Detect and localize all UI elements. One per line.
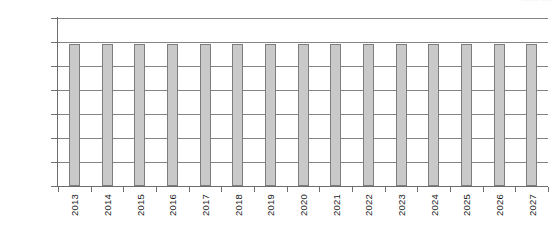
- x-axis-tick-label: 2013: [69, 194, 80, 216]
- bar-2013: [69, 44, 80, 186]
- bar-2023: [396, 44, 407, 186]
- x-axis-tick-label: 2017: [200, 194, 211, 216]
- x-tick-mark: [515, 187, 516, 192]
- bar-2022: [363, 44, 374, 186]
- x-axis-tick-label: 2019: [265, 194, 276, 216]
- bar-2026: [494, 44, 505, 186]
- x-tick-mark: [450, 187, 451, 192]
- x-axis-tick-label: 2026: [494, 194, 505, 216]
- y-tick-mark: [51, 114, 58, 115]
- x-tick-mark: [221, 187, 222, 192]
- gridline: [58, 42, 548, 43]
- bar-2027: [526, 44, 537, 186]
- bar-2021: [330, 44, 341, 186]
- y-tick-mark: [51, 90, 58, 91]
- y-tick-mark: [51, 66, 58, 67]
- y-tick-mark: [51, 162, 58, 163]
- x-axis-tick-label: 2015: [135, 194, 146, 216]
- x-tick-mark: [156, 187, 157, 192]
- y-tick-mark: [51, 42, 58, 43]
- x-tick-mark: [189, 187, 190, 192]
- x-tick-mark: [287, 187, 288, 192]
- x-tick-mark: [123, 187, 124, 192]
- bar-2024: [428, 44, 439, 186]
- gridline: [58, 186, 548, 187]
- bar-2015: [134, 44, 145, 186]
- plot-area: [58, 18, 548, 186]
- x-tick-mark: [254, 187, 255, 192]
- bar-2016: [167, 44, 178, 186]
- x-tick-mark: [483, 187, 484, 192]
- x-axis-tick-label: 2020: [298, 194, 309, 216]
- gridline: [58, 18, 548, 19]
- bar-2018: [232, 44, 243, 186]
- x-axis-tick-label: 2016: [167, 194, 178, 216]
- x-tick-mark: [417, 187, 418, 192]
- y-tick-mark: [51, 138, 58, 139]
- x-axis-tick-label: 2022: [363, 194, 374, 216]
- x-axis-tick-label: 2021: [331, 194, 342, 216]
- x-tick-mark: [91, 187, 92, 192]
- bar-chart: ........ .... 0£5,000£10,000£15,000£20,0…: [0, 0, 560, 227]
- x-axis-tick-label: 2025: [461, 194, 472, 216]
- x-axis-tick-label: 2018: [233, 194, 244, 216]
- y-tick-mark: [51, 18, 58, 19]
- x-axis-tick-label: 2024: [429, 194, 440, 216]
- bar-2025: [461, 44, 472, 186]
- x-tick-mark: [319, 187, 320, 192]
- x-axis-tick-label: 2027: [527, 194, 538, 216]
- x-tick-mark: [58, 187, 59, 192]
- y-tick-mark: [51, 186, 58, 187]
- x-tick-mark: [548, 187, 549, 192]
- x-axis-tick-label: 2023: [396, 194, 407, 216]
- bar-2019: [265, 44, 276, 186]
- x-tick-mark: [352, 187, 353, 192]
- x-tick-mark: [385, 187, 386, 192]
- bar-2017: [200, 44, 211, 186]
- clipped-header-text: ........ ....: [522, 0, 552, 4]
- bar-2014: [102, 44, 113, 186]
- x-axis-tick-label: 2014: [102, 194, 113, 216]
- bar-2020: [298, 44, 309, 186]
